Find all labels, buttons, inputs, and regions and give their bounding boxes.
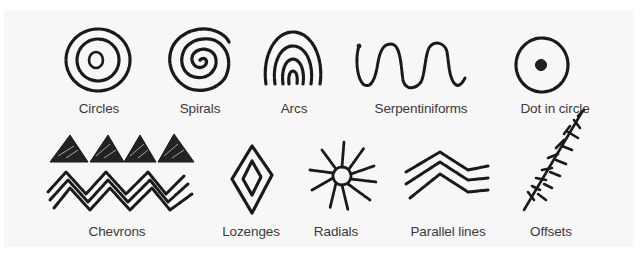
- label-offsets: Offsets: [530, 224, 572, 239]
- label-arcs: Arcs: [281, 101, 308, 116]
- label-lozenges: Lozenges: [222, 224, 280, 239]
- wavy-line-icon: [353, 38, 467, 92]
- concentric-circles-icon: [63, 27, 135, 95]
- dot-in-circle-icon: [513, 36, 573, 96]
- radial-sun-icon: [306, 138, 382, 214]
- label-serpentiniforms: Serpentiniforms: [374, 101, 467, 116]
- chevrons-icon: [44, 132, 196, 220]
- label-radials: Radials: [314, 224, 358, 239]
- label-spirals: Spirals: [180, 101, 221, 116]
- label-parallel-lines: Parallel lines: [410, 224, 485, 239]
- label-chevrons: Chevrons: [89, 224, 146, 239]
- nested-arcs-icon: [262, 28, 324, 88]
- spiral-icon: [160, 22, 240, 98]
- offsets-branch-icon: [518, 108, 588, 212]
- parallel-lines-icon: [404, 148, 490, 204]
- label-circles: Circles: [79, 101, 120, 116]
- lozenge-icon: [228, 143, 276, 215]
